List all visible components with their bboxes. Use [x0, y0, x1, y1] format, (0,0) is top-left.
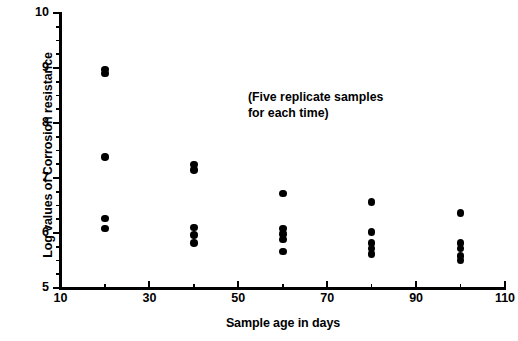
data-point: [368, 198, 376, 206]
y-tick-minor: [56, 136, 60, 138]
y-tick-label: 8: [25, 115, 49, 129]
data-point: [101, 70, 109, 78]
x-tick-label: 70: [307, 291, 347, 305]
y-tick-minor: [56, 273, 60, 275]
x-tick-label: 90: [396, 291, 436, 305]
y-tick-minor: [56, 218, 60, 220]
y-tick-major: [53, 12, 59, 14]
y-tick-minor: [56, 26, 60, 28]
x-tick-major: [60, 281, 62, 287]
x-axis-line: [59, 287, 506, 290]
data-point: [190, 166, 198, 174]
x-tick-label: 10: [41, 291, 81, 305]
x-tick-label: 30: [129, 291, 169, 305]
data-point: [457, 209, 465, 217]
x-tick-major: [237, 281, 239, 287]
x-tick-label: 50: [218, 291, 258, 305]
y-tick-minor: [56, 40, 60, 42]
data-point: [190, 231, 198, 239]
y-tick-minor: [56, 163, 60, 165]
y-axis-line: [59, 12, 62, 290]
y-tick-minor: [56, 191, 60, 193]
x-tick-minor: [460, 284, 462, 288]
x-tick-major: [148, 281, 150, 287]
y-tick-minor: [56, 205, 60, 207]
x-tick-major: [415, 281, 417, 287]
replicate-annotation: (Five replicate samples for each time): [248, 89, 383, 121]
y-tick-label: 7: [25, 170, 49, 184]
data-point: [279, 236, 287, 244]
y-tick-major: [53, 177, 59, 179]
y-tick-minor: [56, 150, 60, 152]
y-tick-minor: [56, 246, 60, 248]
x-tick-minor: [371, 284, 373, 288]
x-tick-major: [326, 281, 328, 287]
y-tick-label: 6: [25, 225, 49, 239]
y-tick-major: [53, 287, 59, 289]
y-tick-minor: [56, 95, 60, 97]
x-tick-minor: [193, 284, 195, 288]
y-tick-major: [53, 67, 59, 69]
x-tick-minor: [104, 284, 106, 288]
x-tick-minor: [282, 284, 284, 288]
data-point: [101, 225, 109, 233]
scatter-plot-figure: Log values of Corrosion resistance Sampl…: [0, 0, 518, 341]
data-point: [190, 239, 198, 247]
data-point: [190, 224, 198, 232]
data-point: [368, 228, 376, 236]
data-point: [279, 248, 287, 256]
y-tick-minor: [56, 81, 60, 83]
data-point: [457, 245, 465, 253]
y-tick-minor: [56, 53, 60, 55]
y-tick-minor: [56, 260, 60, 262]
x-axis-title: Sample age in days: [60, 316, 506, 330]
y-tick-label: 10: [25, 5, 49, 19]
data-point: [101, 153, 109, 161]
data-point: [457, 257, 465, 265]
x-tick-label: 110: [485, 291, 518, 305]
data-point: [101, 215, 109, 223]
y-tick-major: [53, 232, 59, 234]
y-tick-major: [53, 122, 59, 124]
y-tick-label: 9: [25, 60, 49, 74]
y-tick-minor: [56, 108, 60, 110]
x-tick-major: [504, 281, 506, 287]
data-point: [279, 190, 287, 198]
data-point: [368, 250, 376, 258]
